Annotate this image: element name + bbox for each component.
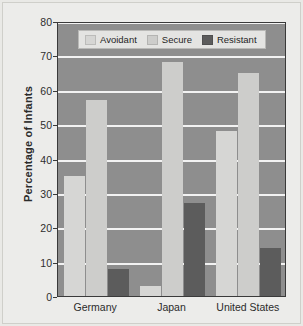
chart-legend: Avoidant Secure Resistant xyxy=(78,30,266,49)
bar-germany-resistant xyxy=(108,269,129,297)
bar-japan-secure xyxy=(162,62,183,296)
x-tick-label: United States xyxy=(216,301,279,313)
bar-chart-figure: Percentage of Infants 01020304050607080 … xyxy=(0,0,303,326)
y-tick-label: 40 xyxy=(26,154,52,166)
bar-group xyxy=(64,23,129,296)
x-tick-label: Japan xyxy=(157,301,186,313)
legend-swatch-resistant xyxy=(202,35,213,45)
x-axis-labels: GermanyJapanUnited States xyxy=(57,301,286,321)
bar-united-states-secure xyxy=(238,73,259,296)
legend-swatch-avoidant xyxy=(85,35,96,45)
bar-japan-resistant xyxy=(184,203,205,296)
legend-item-resistant: Resistant xyxy=(202,34,257,45)
bar-japan-avoidant xyxy=(140,286,161,296)
y-tick-label: 10 xyxy=(26,257,52,269)
bar-group xyxy=(140,23,205,296)
legend-swatch-secure xyxy=(147,35,158,45)
y-tick-label: 20 xyxy=(26,222,52,234)
y-tick-label: 70 xyxy=(26,50,52,62)
bar-germany-secure xyxy=(86,100,107,296)
legend-label-resistant: Resistant xyxy=(217,34,257,45)
y-tick-label: 50 xyxy=(26,119,52,131)
y-tick-label: 0 xyxy=(26,291,52,303)
y-tick-label: 80 xyxy=(26,16,52,28)
bar-group xyxy=(216,23,281,296)
y-tick-label: 60 xyxy=(26,85,52,97)
legend-label-secure: Secure xyxy=(162,34,192,45)
bar-united-states-resistant xyxy=(260,248,281,296)
y-tick-mark xyxy=(53,297,57,298)
bar-united-states-avoidant xyxy=(216,131,237,296)
bar-germany-avoidant xyxy=(64,176,85,296)
plot-area: Avoidant Secure Resistant xyxy=(57,22,286,297)
legend-item-secure: Secure xyxy=(147,34,192,45)
legend-label-avoidant: Avoidant xyxy=(100,34,137,45)
y-tick-label: 30 xyxy=(26,188,52,200)
legend-item-avoidant: Avoidant xyxy=(85,34,137,45)
x-tick-label: Germany xyxy=(74,301,117,313)
